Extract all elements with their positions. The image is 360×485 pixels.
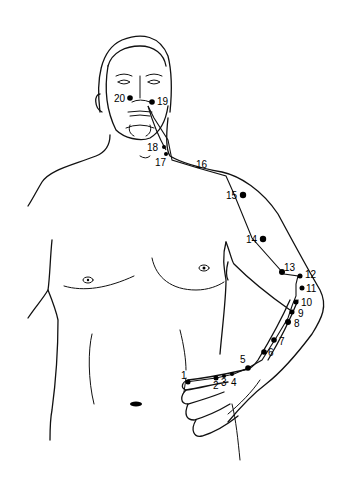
torso-outline (28, 118, 324, 440)
point-labels: 1 2 3 4 5 6 7 8 9 10 11 12 13 14 15 16 1… (114, 93, 317, 391)
label-17: 17 (155, 157, 167, 168)
anatomy-illustration: 1 2 3 4 5 6 7 8 9 10 11 12 13 14 15 16 1… (0, 0, 360, 485)
point-17 (164, 152, 168, 156)
label-16: 16 (196, 159, 208, 170)
label-14: 14 (246, 234, 258, 245)
point-7 (271, 337, 277, 343)
label-3: 3 (221, 377, 227, 388)
point-5 (245, 365, 251, 371)
point-20 (127, 95, 133, 101)
label-6: 6 (268, 347, 274, 358)
label-5: 5 (240, 354, 246, 365)
label-13: 13 (284, 262, 296, 273)
point-12 (298, 274, 303, 279)
point-14 (260, 236, 266, 242)
label-20: 20 (114, 93, 126, 104)
point-9 (290, 310, 295, 315)
label-2: 2 (213, 380, 219, 391)
point-8 (285, 319, 291, 325)
label-15: 15 (226, 190, 238, 201)
label-1: 1 (181, 370, 187, 381)
label-10: 10 (301, 297, 313, 308)
label-19: 19 (157, 96, 169, 107)
point-11 (300, 286, 305, 291)
label-9: 9 (298, 308, 304, 319)
point-19 (149, 99, 155, 105)
point-4 (230, 372, 234, 376)
label-18: 18 (147, 142, 159, 153)
label-12: 12 (305, 269, 317, 280)
acupoints (127, 95, 304, 384)
label-7: 7 (279, 336, 285, 347)
point-10 (294, 300, 299, 305)
point-6 (261, 349, 267, 355)
label-4: 4 (231, 377, 237, 388)
label-8: 8 (294, 318, 300, 329)
point-15 (240, 192, 246, 198)
label-11: 11 (306, 283, 317, 294)
point-18 (162, 145, 166, 149)
